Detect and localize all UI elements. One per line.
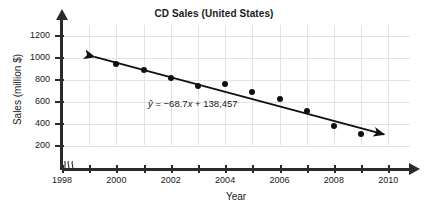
gridline-horizontal <box>62 80 410 81</box>
data-point <box>195 83 201 89</box>
x-axis-tick-label: 2004 <box>205 176 245 185</box>
x-axis-tick-label: 2000 <box>96 176 136 185</box>
gridline-vertical <box>361 25 362 145</box>
x-axis-arrow-icon <box>409 163 420 175</box>
gridline-horizontal <box>62 36 410 37</box>
x-axis-title: Year <box>62 191 410 202</box>
gridline-vertical <box>280 25 281 145</box>
y-axis-arrow-icon <box>56 9 68 20</box>
gridline-vertical <box>144 25 145 145</box>
y-axis-tick <box>55 35 64 37</box>
x-axis-tick-label: 1998 <box>42 176 82 185</box>
x-axis-tick <box>361 165 363 173</box>
gridline-vertical <box>307 25 308 145</box>
x-axis-tick <box>307 165 309 173</box>
x-axis-tick-label: 2006 <box>260 176 300 185</box>
x-axis-tick <box>334 165 336 173</box>
y-axis-tick <box>55 57 64 59</box>
y-axis-tick <box>55 123 64 125</box>
x-axis-tick-label: 2002 <box>151 176 191 185</box>
x-axis-tick <box>89 165 91 173</box>
y-axis-tick <box>55 145 64 147</box>
x-axis-tick <box>225 165 227 173</box>
chart-figure: CD Sales (United States) 200400600800100… <box>0 0 428 212</box>
data-point <box>141 67 147 73</box>
gridline-vertical <box>89 25 90 145</box>
x-axis-tick <box>280 165 282 173</box>
y-axis-tick <box>55 101 64 103</box>
gridline-horizontal <box>62 58 410 59</box>
x-axis-tick <box>252 165 254 173</box>
x-axis-tick <box>62 165 64 173</box>
y-axis-tick <box>55 79 64 81</box>
gridline-vertical <box>388 25 389 145</box>
x-axis-tick <box>144 165 146 173</box>
y-axis-line <box>60 18 63 170</box>
regression-equation-label: ŷ = −68.7x + 138,457 <box>148 98 238 109</box>
axis-break-icon <box>63 159 79 172</box>
gridline-vertical <box>116 25 117 145</box>
x-axis-tick <box>388 165 390 173</box>
x-axis-tick-label: 2010 <box>368 176 408 185</box>
x-axis-tick <box>171 165 173 173</box>
data-point <box>277 96 283 102</box>
gridline-vertical <box>171 25 172 145</box>
gridline-vertical <box>252 25 253 145</box>
x-axis-tick <box>116 165 118 173</box>
x-axis-tick <box>198 165 200 173</box>
gridline-horizontal <box>62 146 410 147</box>
gridline-horizontal <box>62 124 410 125</box>
plot-area <box>62 25 410 145</box>
data-point <box>168 75 174 81</box>
y-axis-title: Sales (million $) <box>12 25 23 155</box>
x-axis-line <box>62 168 410 171</box>
x-axis-tick-label: 2008 <box>314 176 354 185</box>
